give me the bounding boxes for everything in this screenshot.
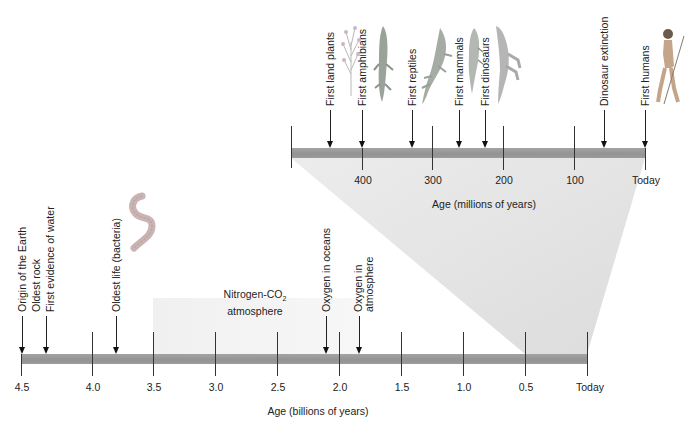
bottom-tick-2.0	[339, 332, 340, 376]
bottom-tick-label: 3.0	[209, 381, 224, 393]
top-tick-100	[574, 126, 575, 170]
plant-illustration-icon	[340, 22, 362, 96]
bottom-tick-label: 4.5	[15, 381, 30, 393]
bottom-tick-label: 2.5	[271, 381, 286, 393]
bottom-tick-label: 3.5	[147, 381, 162, 393]
top-tick-start	[291, 126, 292, 168]
top-tick-label: Today	[632, 174, 660, 186]
top-axis-label: Age (millions of years)	[432, 198, 536, 210]
top-tick-label: 100	[566, 174, 584, 186]
bottom-tick-3.0	[215, 332, 216, 376]
bottom-tick-label: Today	[576, 381, 604, 393]
bottom-tick-1.5	[401, 332, 402, 376]
mammal-illustration-icon	[464, 26, 484, 96]
top-tick-label: 300	[424, 174, 442, 186]
bottom-tick-4.5	[21, 354, 22, 376]
human-illustration-icon	[654, 26, 688, 106]
bottom-tick-3.5	[153, 332, 154, 376]
top-tick-300	[432, 126, 433, 170]
bottom-tick-label: 4.0	[86, 381, 101, 393]
bottom-tick-label: 0.5	[519, 381, 534, 393]
reptile-illustration-icon	[418, 26, 454, 106]
dinosaur-illustration-icon	[490, 24, 522, 106]
bottom-tick-label: 1.0	[457, 381, 472, 393]
bottom-tick-0.5	[525, 332, 526, 376]
nitrogen-co2-atmosphere-label: Nitrogen-CO2 atmosphere	[200, 288, 310, 318]
top-tick-400	[362, 148, 363, 170]
top-tick-today	[645, 148, 646, 170]
bottom-tick-today	[587, 332, 588, 376]
bottom-tick-1.0	[463, 332, 464, 376]
bottom-timeline-bar	[21, 354, 587, 364]
bottom-tick-label: 1.5	[395, 381, 410, 393]
amphibian-illustration-icon	[373, 24, 395, 104]
bottom-tick-2.5	[277, 332, 278, 376]
bottom-axis-label: Age (billions of years)	[268, 405, 369, 417]
top-tick-label: 200	[495, 174, 513, 186]
top-tick-label: 400	[354, 174, 372, 186]
top-timeline-bar	[291, 148, 645, 158]
bacteria-illustration-icon	[124, 192, 160, 252]
top-tick-200	[503, 126, 504, 170]
bottom-tick-4.0	[92, 332, 93, 376]
bottom-tick-label: 2.0	[333, 381, 348, 393]
